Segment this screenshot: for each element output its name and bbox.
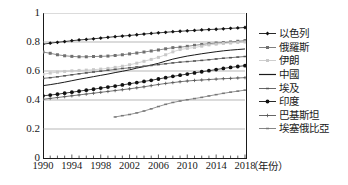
legend-item[interactable]: 印度 <box>258 95 348 109</box>
legend-item[interactable]: 中國 <box>258 68 348 82</box>
legend-marker-icon <box>258 122 277 135</box>
y-axis-tick-label: 1 <box>2 7 40 18</box>
legend-item[interactable]: 埃及 <box>258 81 348 95</box>
legend-marker-icon <box>258 82 277 95</box>
legend-item[interactable]: 以色列 <box>258 27 348 41</box>
legend-item[interactable]: 巴基斯坦 <box>258 109 348 123</box>
legend-marker-icon <box>258 109 277 122</box>
legend-label: 以色列 <box>277 27 309 40</box>
legend-label: 埃塞俄比亞 <box>277 122 329 135</box>
legend-label: 埃及 <box>277 82 299 95</box>
legend-item[interactable]: 伊朗 <box>258 54 348 68</box>
plot-area <box>43 13 246 159</box>
y-axis-labels: 00.20.40.60.81 <box>0 0 40 185</box>
y-axis-tick-label: 0.6 <box>2 65 40 76</box>
x-axis-labels: 19901994199820022006201020142018 <box>0 160 348 180</box>
legend-marker-icon <box>258 41 277 54</box>
legend-label: 中國 <box>277 68 299 81</box>
chart-container: 00.20.40.60.81 1990199419982002200620102… <box>0 0 348 185</box>
y-axis-tick-label: 0.8 <box>2 36 40 47</box>
legend-marker-icon <box>258 95 277 108</box>
legend-marker-icon <box>258 27 277 40</box>
legend-label: 俄羅斯 <box>277 41 309 54</box>
chart-legend: 以色列俄羅斯伊朗中國埃及印度巴基斯坦埃塞俄比亞 <box>258 27 348 136</box>
x-axis-title: （年份） <box>248 160 288 172</box>
legend-item[interactable]: 埃塞俄比亞 <box>258 122 348 136</box>
legend-marker-icon <box>258 54 277 67</box>
legend-marker-icon <box>258 68 277 81</box>
legend-label: 巴基斯坦 <box>277 109 319 122</box>
legend-label: 印度 <box>277 95 299 108</box>
y-axis-tick-label: 0.4 <box>2 94 40 105</box>
legend-label: 伊朗 <box>277 54 299 67</box>
y-axis-tick-label: 0.2 <box>2 123 40 134</box>
legend-item[interactable]: 俄羅斯 <box>258 41 348 55</box>
